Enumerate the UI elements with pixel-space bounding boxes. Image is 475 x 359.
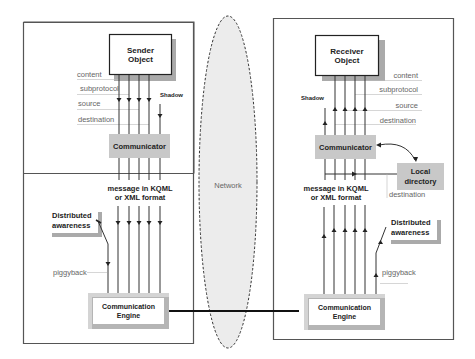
receiver-shadow-label: Shadow (301, 95, 324, 101)
sender-object-title-2: Object (128, 55, 153, 64)
sender-piggyback-label: piggyback (53, 268, 87, 277)
sender-awareness-line1: Distributed (52, 211, 92, 220)
sender-awareness-line2: awareness (52, 221, 90, 230)
receiver-communicator-label: Communicator (319, 143, 372, 152)
sender-object-title-1: Sender (127, 46, 154, 55)
receiver-field-source: source (395, 101, 418, 110)
sender-engine-box (93, 298, 164, 324)
sender-shadow-label: Shadow (160, 92, 183, 98)
sender-engine-line2: Engine (117, 312, 140, 320)
sender-field-destination: destination (78, 115, 114, 124)
directory-destination-label: destination (389, 190, 425, 199)
receiver-awareness-line2: awareness (391, 228, 429, 237)
receiver-field-subprotocol: subprotocol (379, 85, 418, 94)
sender-message-line2: or XML format (115, 193, 166, 202)
local-directory-line2: directory (404, 177, 437, 186)
local-directory-line1: Local (411, 167, 431, 176)
receiver-engine-line2: Engine (333, 313, 356, 321)
sender-message-arrows (116, 221, 163, 225)
sender-field-source: source (78, 99, 101, 108)
sender-field-subprotocol: subprotocol (80, 84, 119, 93)
network-cloud: Network (199, 16, 257, 348)
network-label: Network (214, 181, 242, 190)
diagram-canvas: Network Sender Object content subprotoco… (0, 0, 475, 359)
receiver-message-line2: or XML format (311, 193, 362, 202)
receiver-piggyback-label: piggyback (382, 268, 416, 277)
receiver-message-line1: message in KQML (303, 184, 368, 193)
sender-message-lines (118, 206, 160, 293)
receiver-object-title-2: Object (335, 56, 360, 65)
receiver-engine-line1: Communication (318, 304, 371, 311)
sender-awareness-block: Distributed awareness (52, 211, 102, 237)
sender-message-line1: message in KQML (107, 184, 172, 193)
sender-communicator-label: Communicator (113, 142, 166, 151)
receiver-awareness-line1: Distributed (391, 218, 431, 227)
receiver-field-destination: destination (380, 116, 416, 125)
receiver-engine-box (309, 299, 380, 325)
sender-engine-line1: Communication (102, 303, 155, 310)
receiver-field-content: content (393, 71, 419, 80)
receiver-object-title-1: Receiver (330, 47, 363, 56)
sender-field-content: content (77, 70, 103, 79)
